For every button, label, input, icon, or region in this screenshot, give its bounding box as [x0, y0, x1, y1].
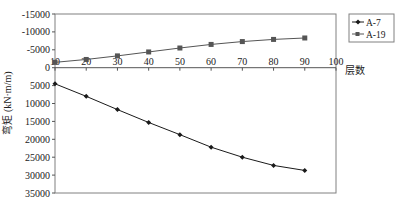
data-point-a-19 [84, 57, 89, 62]
data-point-a-19 [177, 46, 182, 51]
y-tick-label: 10000 [25, 98, 50, 109]
y-axis-label: 弯矩 (kN·m/m) [1, 71, 14, 134]
data-point-a-19 [302, 35, 307, 40]
data-point-a-19 [53, 60, 58, 65]
data-point-a-19 [209, 42, 214, 47]
y-tick-label: 5000 [30, 80, 50, 91]
legend-label: A-19 [366, 30, 386, 40]
x-axis-label: 层数 [345, 64, 365, 76]
y-tick-label: 15000 [25, 116, 50, 127]
x-tick-label: 70 [237, 56, 247, 67]
x-tick-label: 40 [144, 56, 154, 67]
y-tick-label: 20000 [25, 134, 50, 145]
y-tick-label: 35000 [25, 188, 50, 199]
y-tick-label: 0 [45, 62, 50, 73]
x-tick-label: 50 [175, 56, 185, 67]
data-point-a-19 [146, 49, 151, 54]
y-tick-label: -15000 [22, 9, 50, 20]
y-tick-label: -10000 [22, 26, 50, 37]
x-tick-label: 100 [329, 56, 344, 67]
data-point-a-19 [240, 39, 245, 44]
y-tick-label: 25000 [25, 152, 50, 163]
legend: A-7A-19 [349, 14, 394, 42]
legend-label: A-7 [366, 18, 381, 28]
data-point-a-19 [271, 37, 276, 42]
x-tick-label: 60 [206, 56, 216, 67]
legend-marker [356, 32, 360, 36]
y-tick-label: 30000 [25, 170, 50, 181]
plot-area [55, 14, 336, 193]
bending-moment-chart: 102030405060708090100 -15000-10000-50000… [0, 0, 398, 203]
x-tick-label: 80 [269, 56, 279, 67]
data-point-a-19 [115, 53, 120, 58]
x-tick-label: 90 [300, 56, 310, 67]
y-tick-label: -5000 [27, 44, 50, 55]
